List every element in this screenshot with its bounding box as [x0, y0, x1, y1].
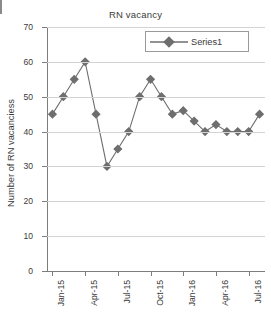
x-axis-tick-label: Apr-15	[89, 280, 99, 306]
y-axis-tick-label: 50	[23, 92, 33, 102]
y-axis-tick	[42, 201, 47, 202]
x-axis-line	[47, 271, 265, 272]
data-point-marker	[48, 110, 57, 119]
legend-marker-Series1	[149, 34, 189, 50]
x-axis-tick-label: Apr-16	[220, 280, 230, 306]
plot-area	[47, 27, 265, 271]
x-axis-tick	[216, 271, 217, 276]
x-axis-tick	[249, 271, 250, 276]
series-line-Series1	[47, 27, 265, 271]
data-point-marker	[113, 144, 122, 153]
gridline	[47, 201, 265, 202]
gridline	[47, 27, 265, 28]
y-axis-tick	[42, 166, 47, 167]
gridline	[47, 166, 265, 167]
y-axis-tick	[42, 132, 47, 133]
x-axis-tick-label: Jan-16	[187, 280, 197, 306]
data-point-marker	[91, 110, 100, 119]
chart-page: RN vacancy Number of RN vacanciess 01020…	[0, 0, 271, 331]
y-axis-tick	[42, 62, 47, 63]
x-axis-tick	[52, 271, 53, 276]
x-axis-tick	[183, 271, 184, 276]
gridline	[47, 97, 265, 98]
y-axis-tick-labels: 010203040506070	[0, 0, 41, 331]
legend-label-Series1: Series1	[191, 37, 222, 47]
y-axis-tick-label: 10	[23, 231, 33, 241]
data-point-marker	[146, 75, 155, 84]
y-axis-tick	[42, 97, 47, 98]
y-axis-tick-label: 30	[23, 161, 33, 171]
y-axis-tick-label: 70	[23, 22, 33, 32]
gridline	[47, 62, 265, 63]
series-path	[52, 62, 259, 167]
x-axis-tick-label: Jan-15	[56, 280, 66, 306]
y-axis-tick	[42, 271, 47, 272]
gridline	[47, 132, 265, 133]
x-axis-tick	[118, 271, 119, 276]
data-point-marker	[255, 110, 264, 119]
y-axis-tick-label: 0	[28, 266, 33, 276]
gridline	[47, 236, 265, 237]
data-point-marker	[168, 110, 177, 119]
x-axis-tick-label: Jul-16	[253, 280, 263, 303]
x-axis-tick-label: Oct-15	[155, 280, 165, 306]
chart-legend: Series1	[145, 31, 249, 52]
x-axis-tick	[85, 271, 86, 276]
y-axis-tick-label: 20	[23, 196, 33, 206]
data-point-marker	[70, 75, 79, 84]
y-axis-tick	[42, 27, 47, 28]
y-axis-tick-label: 40	[23, 127, 33, 137]
data-point-marker	[211, 120, 220, 129]
y-axis-tick-label: 60	[23, 57, 33, 67]
x-axis-tick-label: Jul-15	[122, 280, 132, 303]
y-axis-tick	[42, 236, 47, 237]
x-axis-tick	[151, 271, 152, 276]
